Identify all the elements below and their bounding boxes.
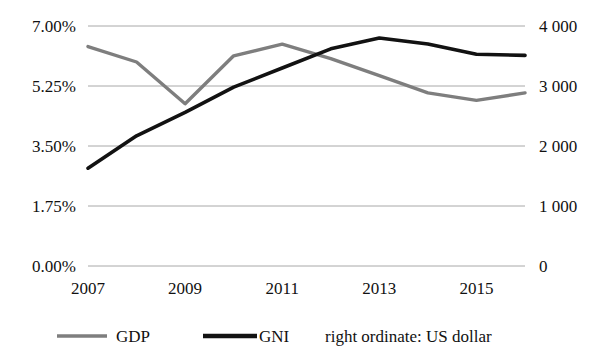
left-axis-tick-label: 5.25% — [32, 77, 76, 96]
right-axis-tick-label: 0 — [539, 257, 548, 276]
right-axis-tick-label: 2 000 — [539, 137, 577, 156]
legend-label-gni: GNI — [259, 327, 290, 346]
left-axis-tick-label: 1.75% — [32, 197, 76, 216]
series-line-gni — [88, 38, 525, 168]
right-ordinate-note: right ordinate: US dollar — [325, 327, 492, 346]
x-axis-tick-label: 2011 — [266, 279, 299, 298]
x-axis-tick-label: 2015 — [459, 279, 493, 298]
legend: GDP GNI right ordinate: US dollar — [57, 327, 492, 346]
gridlines-group — [88, 26, 525, 266]
x-axis-tick-labels: 20072009201120132015 — [71, 279, 493, 298]
left-axis-tick-label: 3.50% — [32, 137, 76, 156]
right-axis-tick-label: 3 000 — [539, 77, 577, 96]
left-axis-tick-label: 0.00% — [32, 257, 76, 276]
right-axis-tick-labels: 01 0002 0003 0004 000 — [539, 17, 577, 276]
left-axis-tick-labels: 0.00%1.75%3.50%5.25%7.00% — [32, 17, 76, 276]
right-axis-tick-label: 4 000 — [539, 17, 577, 36]
left-axis-tick-label: 7.00% — [32, 17, 76, 36]
x-axis-tick-label: 2009 — [168, 279, 202, 298]
right-axis-tick-label: 1 000 — [539, 197, 577, 216]
x-axis-tick-label: 2007 — [71, 279, 106, 298]
x-axis-tick-label: 2013 — [362, 279, 396, 298]
chart-container: 0.00%1.75%3.50%5.25%7.00% 01 0002 0003 0… — [0, 0, 613, 347]
series-line-gdp — [88, 44, 525, 104]
line-chart: 0.00%1.75%3.50%5.25%7.00% 01 0002 0003 0… — [0, 0, 613, 347]
legend-label-gdp: GDP — [116, 327, 150, 346]
